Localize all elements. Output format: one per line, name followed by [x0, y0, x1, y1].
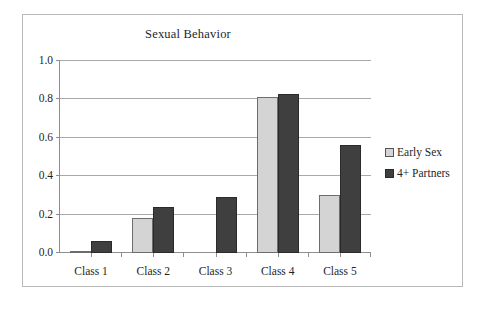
- x-tick-mark: [153, 253, 154, 257]
- x-tick-mark: [91, 253, 92, 257]
- x-tick-mark: [340, 253, 341, 257]
- bar-group-class-3: Class 3: [184, 61, 246, 253]
- y-axis-tick-label: 0.2: [39, 208, 53, 220]
- bar-group-class-4: Class 4: [247, 61, 309, 253]
- bar-group-bars: [184, 61, 246, 253]
- legend-item-four-plus-partners[interactable]: 4+ Partners: [385, 167, 450, 179]
- y-axis-tick-label: 0.8: [39, 92, 53, 104]
- bar-class-1-series-1[interactable]: [91, 241, 112, 253]
- bar-group-bars: [122, 61, 184, 253]
- legend-swatch-icon-four-plus-partners: [385, 169, 394, 178]
- x-axis-tick-label: Class 5: [323, 265, 357, 277]
- bar-class-3-series-1[interactable]: [216, 197, 237, 253]
- x-category-separator: [308, 253, 309, 257]
- y-axis-tick-label: 0.0: [39, 246, 53, 258]
- plot-area: 0.00.20.40.60.81.0 Class 1Class 2Class 3…: [59, 61, 371, 253]
- bars-layer: Class 1Class 2Class 3Class 4Class 5: [60, 61, 371, 253]
- x-axis-tick-label: Class 1: [74, 265, 108, 277]
- bar-class-2-series-0[interactable]: [132, 218, 153, 253]
- bar-group-class-1: Class 1: [60, 61, 122, 253]
- legend-swatch-icon-early-sex: [385, 148, 394, 157]
- bar-class-1-series-0[interactable]: [70, 251, 91, 253]
- x-category-separator: [246, 253, 247, 257]
- legend-label-four-plus-partners: 4+ Partners: [397, 167, 450, 179]
- bar-class-4-series-1[interactable]: [278, 94, 299, 253]
- bar-group-bars: [247, 61, 309, 253]
- bar-group-class-2: Class 2: [122, 61, 184, 253]
- chart-figure-frame: Sexual Behavior 0.00.20.40.60.81.0 Class…: [22, 14, 463, 287]
- x-tick-mark: [216, 253, 217, 257]
- bar-group-bars: [309, 61, 371, 253]
- x-category-separator: [183, 253, 184, 257]
- x-category-separator: [370, 253, 371, 257]
- y-axis-tick-label: 1.0: [39, 54, 53, 66]
- bar-class-2-series-1[interactable]: [153, 207, 174, 253]
- bar-class-4-series-0[interactable]: [257, 97, 278, 253]
- legend-item-early-sex[interactable]: Early Sex: [385, 146, 450, 158]
- x-axis-tick-label: Class 3: [199, 265, 233, 277]
- chart-title: Sexual Behavior: [23, 27, 353, 42]
- legend-label-early-sex: Early Sex: [397, 146, 442, 158]
- x-category-separator: [121, 253, 122, 257]
- bar-class-5-series-1[interactable]: [340, 145, 361, 253]
- chart-legend: Early Sex 4+ Partners: [385, 146, 450, 179]
- bar-class-5-series-0[interactable]: [319, 195, 340, 253]
- y-axis-tick-label: 0.6: [39, 131, 53, 143]
- x-tick-mark: [278, 253, 279, 257]
- bar-group-bars: [60, 61, 122, 253]
- x-axis-tick-label: Class 2: [137, 265, 171, 277]
- bar-group-class-5: Class 5: [309, 61, 371, 253]
- y-axis-tick-label: 0.4: [39, 169, 53, 181]
- x-axis-tick-label: Class 4: [261, 265, 295, 277]
